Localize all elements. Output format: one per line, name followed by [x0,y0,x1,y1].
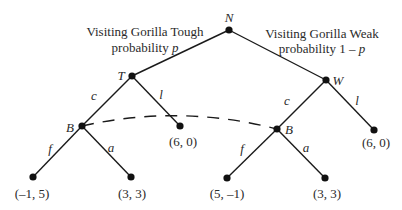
label-T: T [117,68,125,83]
leaf-BR-a [321,174,328,181]
node-W [322,76,329,83]
leaf-BR-f [223,174,230,181]
leaf-W-l [370,126,377,133]
game-tree-diagram: N T W B B Visiting Gorilla Tough probabi… [0,0,402,210]
action-W-l: l [355,93,359,108]
branch-title-tough: Visiting Gorilla Tough [86,24,204,39]
action-BL-f: f [48,141,54,156]
branch-title-weak: Visiting Gorilla Weak [265,26,379,41]
node-B-right [273,125,280,132]
action-T-l: l [159,87,163,102]
edge-BL-f [33,126,82,177]
action-BR-f: f [240,141,246,156]
leaf-BL-a [127,173,134,180]
label-N: N [224,10,235,25]
payoff-BR-a: (3, 3) [313,186,341,201]
action-BR-a: a [303,140,310,155]
payoff-BR-f: (5, –1) [210,186,245,201]
edge-BR-f [227,129,277,178]
branch-prob-tough: probability p [112,40,179,55]
edge-BL-a [82,126,131,177]
node-B-left [78,122,85,129]
branch-prob-weak: probability 1 – p [279,41,366,56]
payoff-BL-f: (–1, 5) [15,186,50,201]
label-W: W [333,73,345,88]
label-B-right: B [285,122,293,137]
payoff-BL-a: (3, 3) [118,186,146,201]
leaf-BL-f [29,173,36,180]
action-W-c: c [284,93,290,108]
action-T-c: c [91,88,97,103]
node-N [225,26,232,33]
action-BL-a: a [108,140,115,155]
payoff-W-l: (6, 0) [362,135,390,150]
payoff-T-l: (6, 0) [169,134,197,149]
edge-T-leaf [132,76,180,126]
label-B-left: B [66,120,74,135]
node-T [128,72,135,79]
leaf-T-l [176,122,183,129]
